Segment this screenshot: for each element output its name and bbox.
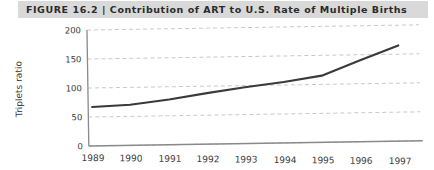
chart-plot-area: 200 150 100 50 0 Triplets ratio 1989 199… (0, 18, 434, 170)
figure-container: FIGURE 16.2 | Contribution of ART to U.S… (0, 0, 434, 170)
gridline-50 (88, 112, 420, 117)
x-tick-label-1990: 1990 (120, 153, 143, 163)
figure-title-label: FIGURE 16.2 | Contribution of ART to U.S… (18, 1, 407, 18)
y-tick-label-200: 200 (65, 25, 81, 35)
x-tick-label-1992: 1992 (197, 154, 220, 164)
x-tick-label-1993: 1993 (235, 155, 258, 165)
data-series-triplets-ratio (91, 45, 399, 107)
line-chart: 200 150 100 50 0 Triplets ratio 1989 199… (0, 18, 434, 170)
y-tick-label-100: 100 (66, 83, 82, 93)
y-tick-label-150: 150 (65, 54, 81, 64)
x-tick-label-1995: 1995 (312, 155, 335, 165)
y-tick-label-0: 0 (77, 141, 83, 151)
gridline-200 (87, 25, 419, 30)
x-tick-label-1996: 1996 (350, 156, 373, 166)
y-axis-title: Triplets ratio (13, 61, 24, 119)
x-axis-line (89, 141, 423, 146)
y-axis-line (87, 30, 89, 146)
y-tick-label-50: 50 (71, 112, 82, 122)
x-tick-label-1997: 1997 (389, 156, 412, 166)
figure-title-banner: FIGURE 16.2 | Contribution of ART to U.S… (18, 1, 428, 18)
x-tick-label-1989: 1989 (82, 153, 105, 163)
x-tick-label-1994: 1994 (274, 155, 297, 165)
x-tick-label-1991: 1991 (159, 154, 182, 164)
